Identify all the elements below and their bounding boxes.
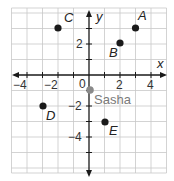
arrow-down-icon xyxy=(86,170,92,177)
svg-text:Sasha: Sasha xyxy=(94,92,132,107)
point-d: D xyxy=(39,102,55,123)
y-axis-label: y xyxy=(95,9,104,24)
svg-text:E: E xyxy=(109,123,118,138)
svg-text:D: D xyxy=(46,108,55,123)
coordinate-plane: y x 0 −4 −2 2 4 2 −2 −4 A B C D E Sasha xyxy=(0,0,174,181)
arrow-up-icon xyxy=(86,10,92,17)
svg-text:B: B xyxy=(109,45,118,60)
point-a: A xyxy=(132,8,147,32)
point-sasha: Sasha xyxy=(86,86,131,107)
x-tick-label: 2 xyxy=(116,78,123,92)
x-tick-label: −2 xyxy=(44,78,58,92)
y-tick-label: −4 xyxy=(68,130,82,144)
origin-label: 0 xyxy=(79,77,86,91)
y-tick-label: −2 xyxy=(68,99,82,113)
x-axis-label: x xyxy=(156,56,164,71)
svg-text:C: C xyxy=(64,10,74,25)
y-tick-label: 2 xyxy=(76,37,83,51)
x-tick-label: 4 xyxy=(147,78,154,92)
point-b: B xyxy=(109,39,124,60)
svg-text:A: A xyxy=(137,8,147,23)
x-tick-label: −4 xyxy=(13,78,27,92)
arrow-right-icon xyxy=(160,72,167,78)
